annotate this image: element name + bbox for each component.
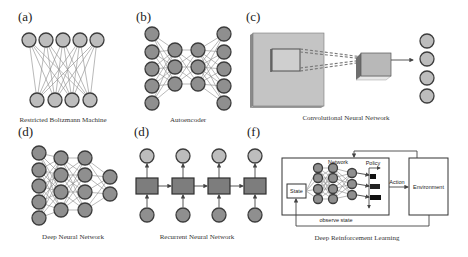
autoencoder-nodes — [145, 27, 231, 110]
drl-node — [314, 195, 323, 204]
panel-label-a: (a) — [18, 9, 32, 24]
rbm-node — [39, 33, 53, 47]
rnn-input-node — [212, 208, 226, 222]
rnn-output-node — [248, 149, 262, 163]
autoencoder-node — [217, 45, 231, 59]
rnn-input-node — [176, 208, 190, 222]
dnn-node — [54, 185, 68, 199]
drl-node — [348, 180, 357, 189]
rbm-node — [30, 93, 44, 107]
rbm-node — [83, 93, 97, 107]
drl-policy-bar — [370, 174, 376, 179]
drl-state-label: State — [290, 188, 303, 194]
rnn-cell — [172, 178, 194, 194]
caption-cnn: Convolutional Neural Network — [302, 114, 390, 122]
autoencoder-node — [145, 79, 159, 93]
drl-observe-label: observe state — [319, 217, 352, 223]
cnn-receptive-field — [272, 49, 300, 71]
panel-label-c: (c) — [246, 9, 260, 24]
panel-cnn: (c) Convolutional Neural Network — [246, 9, 434, 122]
panel-label-b: (b) — [136, 9, 151, 24]
autoencoder-node — [145, 45, 159, 59]
cnn-input-plane-bottom — [250, 106, 324, 108]
drl-node — [329, 195, 338, 204]
autoencoder-node — [145, 62, 159, 76]
dnn-node — [32, 146, 46, 160]
panel-rnn: (d) Recurrent Neural Network — [134, 124, 266, 241]
autoencoder-node — [217, 96, 231, 110]
drl-policy-bar — [370, 184, 380, 189]
drl-action-label: Action — [389, 179, 404, 185]
autoencoder-node — [191, 77, 205, 91]
rnn-output-node — [176, 149, 190, 163]
drl-node — [348, 191, 357, 200]
rnn-input-node — [248, 208, 262, 222]
dnn-node — [78, 151, 92, 165]
neural-network-figure: (a) Restricted Boltzmann Machine (b) Aut… — [0, 0, 468, 257]
caption-rbm: Restricted Boltzmann Machine — [19, 116, 106, 124]
rnn-cell — [208, 178, 230, 194]
rbm-node — [73, 33, 87, 47]
cnn-input-plane-side — [250, 33, 253, 108]
dnn-node — [32, 163, 46, 177]
caption-rnn: Recurrent Neural Network — [160, 233, 235, 241]
panel-rbm: (a) Restricted Boltzmann Machine — [18, 9, 107, 124]
panel-label-d: (d) — [18, 124, 33, 139]
drl-node — [314, 185, 323, 194]
panel-label-d-rnn: (d) — [134, 124, 149, 139]
dnn-node — [103, 187, 117, 201]
drl-environment-label: Environment — [413, 184, 444, 190]
rbm-connections — [29, 40, 97, 100]
drl-node — [314, 174, 323, 183]
panel-dnn: (d) Deep Neural Network — [18, 124, 117, 241]
autoencoder-node — [145, 27, 159, 41]
dnn-node — [54, 168, 68, 182]
dnn-node — [78, 185, 92, 199]
autoencoder-node — [191, 60, 205, 74]
rnn-input-node — [140, 208, 154, 222]
autoencoder-node — [145, 96, 159, 110]
cnn-output-node — [420, 89, 434, 103]
autoencoder-node — [168, 60, 182, 74]
drl-node — [314, 164, 323, 173]
rbm-node — [56, 33, 70, 47]
rnn-cells — [136, 149, 266, 222]
caption-dnn: Deep Neural Network — [42, 233, 104, 241]
dnn-node — [78, 168, 92, 182]
rbm-node — [65, 93, 79, 107]
caption-autoencoder: Autoencoder — [170, 116, 207, 124]
cnn-output-node — [420, 52, 434, 66]
dnn-connections — [39, 153, 110, 218]
rnn-cell — [136, 178, 158, 194]
cnn-feature-box — [361, 53, 391, 76]
autoencoder-node — [217, 27, 231, 41]
rbm-node — [22, 33, 36, 47]
cnn-output-node — [420, 34, 434, 48]
autoencoder-node — [217, 79, 231, 93]
cnn-feature-box-side — [356, 53, 361, 80]
caption-drl: Deep Reinforcement Learning — [314, 234, 400, 242]
dnn-node — [78, 203, 92, 217]
rnn-output-node — [140, 149, 154, 163]
autoencoder-node — [168, 77, 182, 91]
autoencoder-node — [168, 43, 182, 57]
panel-autoencoder: (b) Autoencoder — [136, 9, 231, 124]
rnn-cell — [244, 178, 266, 194]
drl-node — [329, 174, 338, 183]
rbm-nodes — [22, 33, 104, 107]
panel-label-f: (f) — [247, 124, 260, 139]
drl-network-label: Network — [328, 159, 348, 165]
rbm-node — [90, 33, 104, 47]
dnn-node — [32, 195, 46, 209]
rbm-node — [48, 93, 62, 107]
drl-node — [348, 169, 357, 178]
dnn-node — [103, 170, 117, 184]
dnn-node — [54, 151, 68, 165]
dnn-node — [32, 179, 46, 193]
autoencoder-node — [191, 43, 205, 57]
dnn-node — [32, 211, 46, 225]
rnn-output-node — [212, 149, 226, 163]
drl-reward-line — [354, 151, 417, 158]
dnn-node — [54, 203, 68, 217]
cnn-output-node — [420, 71, 434, 85]
